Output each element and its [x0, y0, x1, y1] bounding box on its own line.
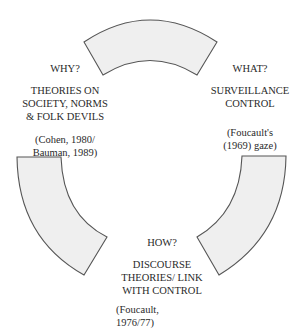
node-what-title-line: CONTROL: [205, 97, 295, 110]
node-why-title-line: & FOLK DEVILS: [10, 110, 120, 123]
node-why-citation-line: Bauman, 1989): [10, 146, 120, 159]
node-how-title-line: DISCOURSE: [112, 258, 212, 271]
node-what-citation-line: (Foucault's: [205, 126, 295, 139]
arc-segment-left: [17, 157, 107, 275]
node-why: WHY? THEORIES ON SOCIETY, NORMS & FOLK D…: [10, 62, 120, 159]
node-what-citation-line: (1969) gaze): [205, 139, 295, 152]
node-how: HOW? DISCOURSE THEORIES/ LINK WITH CONTR…: [112, 236, 212, 329]
node-what: WHAT? SURVEILLANCE CONTROL (Foucault's (…: [205, 62, 295, 152]
node-why-title-line: SOCIETY, NORMS: [10, 97, 120, 110]
node-why-question: WHY?: [10, 62, 120, 75]
node-how-title-line: THEORIES/ LINK: [112, 271, 212, 284]
node-how-citation-line: 1976/77): [112, 316, 212, 329]
node-how-question: HOW?: [112, 236, 212, 249]
node-how-title-line: WITH CONTROL: [112, 284, 212, 297]
node-what-title-line: SURVEILLANCE: [205, 84, 295, 97]
node-why-title-line: THEORIES ON: [10, 84, 120, 97]
node-what-question: WHAT?: [205, 62, 295, 75]
node-why-citation-line: (Cohen, 1980/: [10, 133, 120, 146]
node-how-citation-line: (Foucault,: [112, 303, 212, 316]
